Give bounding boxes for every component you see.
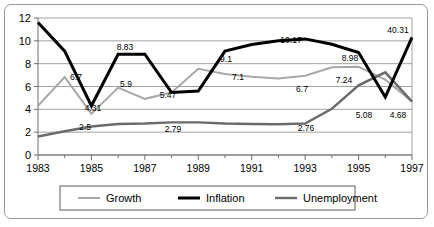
y-axis-tick-labels: 024681012 bbox=[19, 12, 31, 161]
point-label-growth-1993: 6.7 bbox=[296, 84, 308, 94]
point-label-growth-1985: 4.31 bbox=[85, 103, 102, 113]
x-tick-label-1995: 1995 bbox=[347, 162, 371, 174]
x-tick-label-1985: 1985 bbox=[80, 162, 104, 174]
x-tick-label-1989: 1989 bbox=[187, 162, 211, 174]
point-label-growth-1997: 4.68 bbox=[390, 110, 407, 120]
y-tick-label-8: 8 bbox=[25, 58, 31, 70]
x-tick-label-1993: 1993 bbox=[293, 162, 317, 174]
y-tick-label-4: 4 bbox=[25, 103, 31, 115]
x-axis-tick-labels: 19831985198719891991199319951997 bbox=[26, 162, 424, 174]
y-tick-label-0: 0 bbox=[25, 149, 31, 161]
x-tick-label-1991: 1991 bbox=[240, 162, 264, 174]
point-label-inflation-1985: 6.7 bbox=[70, 72, 82, 82]
point-label-unemployment-1995: 7.24 bbox=[336, 75, 353, 85]
x-tick-label-1987: 1987 bbox=[133, 162, 157, 174]
point-label-inflation-1993: 10.17 bbox=[280, 35, 302, 45]
point-label-growth-1987: 5.9 bbox=[120, 79, 132, 89]
x-tick-label-1983: 1983 bbox=[26, 162, 50, 174]
legend-label-growth: Growth bbox=[106, 192, 141, 204]
point-label-unemployment-1993: 2.76 bbox=[298, 123, 315, 133]
y-tick-label-6: 6 bbox=[25, 81, 31, 93]
point-label-unemployment-1989: 2.79 bbox=[165, 124, 182, 134]
point-label-inflation-1987: 8.83 bbox=[117, 42, 134, 52]
legend-label-unemployment: Unemployment bbox=[303, 192, 377, 204]
legend-label-inflation: Inflation bbox=[206, 192, 245, 204]
point-label-growth-1991: 7.1 bbox=[232, 72, 244, 82]
y-tick-label-2: 2 bbox=[25, 126, 31, 138]
point-label-growth-1985: 2.5 bbox=[79, 122, 91, 132]
point-label-inflation-1995: 8.98 bbox=[342, 53, 359, 63]
economic-indicators-line-chart: 024681012 198319851987198919911993199519… bbox=[0, 0, 434, 227]
y-tick-label-12: 12 bbox=[19, 12, 31, 24]
point-label-inflation-1997: 40.31 bbox=[387, 25, 409, 35]
point-label-inflation-1989: 5.47 bbox=[160, 90, 177, 100]
x-tick-label-1997: 1997 bbox=[400, 162, 424, 174]
series-line-inflation bbox=[38, 23, 412, 106]
point-label-inflation-1991: 9.1 bbox=[220, 54, 232, 64]
point-label-inflation-1996: 5.08 bbox=[356, 110, 373, 120]
data-point-labels: 6.74.312.58.835.95.472.799.17.110.176.72… bbox=[70, 25, 409, 134]
chart-legend: GrowthInflationUnemployment bbox=[60, 186, 377, 210]
y-tick-label-10: 10 bbox=[19, 35, 31, 47]
